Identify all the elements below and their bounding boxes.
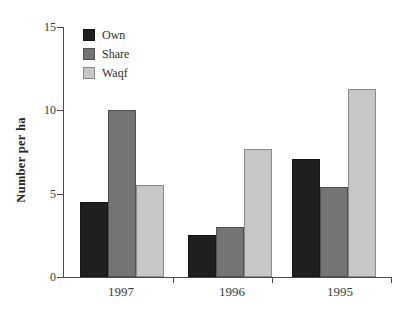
y-axis-line: [63, 27, 64, 278]
x-tick: [272, 277, 273, 283]
legend-item: Own: [83, 29, 129, 41]
legend-swatch-waqf: [83, 67, 95, 79]
y-tick: [57, 194, 63, 195]
bar-own-1996: [188, 235, 216, 277]
bar-waqf-1997: [136, 185, 164, 277]
bar-share-1996: [216, 227, 244, 277]
x-tick: [173, 277, 174, 283]
legend-swatch-own: [83, 29, 95, 41]
y-tick-label: 0: [30, 270, 56, 284]
bar-share-1997: [108, 110, 136, 277]
legend-label: Share: [102, 48, 129, 60]
bar-waqf-1996: [244, 149, 272, 277]
legend-item: Waqf: [83, 67, 129, 79]
y-tick: [57, 27, 63, 28]
bar-own-1995: [292, 159, 320, 277]
x-category-label: 1997: [108, 284, 134, 300]
legend-swatch-share: [83, 48, 95, 60]
legend-item: Share: [83, 48, 129, 60]
y-tick-label: 15: [30, 20, 56, 34]
bar-chart-figure: Number per ha 051015 199719961995 OwnSha…: [0, 0, 409, 316]
y-tick-label: 5: [30, 187, 56, 201]
bar-share-1995: [320, 187, 348, 277]
bar-waqf-1995: [348, 89, 376, 277]
legend-label: Own: [102, 29, 125, 41]
x-category-label: 1996: [219, 284, 245, 300]
legend: OwnShareWaqf: [83, 29, 129, 79]
y-tick: [57, 110, 63, 111]
legend-label: Waqf: [102, 67, 128, 79]
y-axis-title: Number per ha: [14, 117, 29, 202]
x-tick: [391, 277, 392, 283]
bar-own-1997: [80, 202, 108, 277]
y-tick-label: 10: [30, 103, 56, 117]
y-tick: [57, 277, 63, 278]
x-category-label: 1995: [327, 284, 353, 300]
x-axis-line: [63, 277, 392, 278]
